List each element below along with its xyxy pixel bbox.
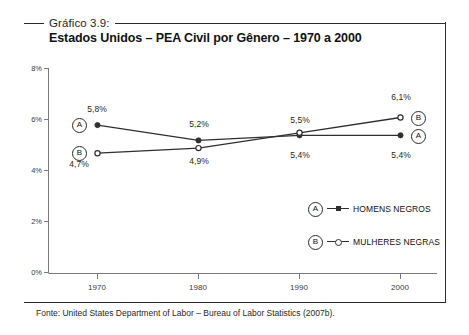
series-line-homens-negros xyxy=(98,125,401,140)
value-label-b-1990: 5,5% xyxy=(283,115,317,125)
value-label-a-2000: 5,4% xyxy=(384,150,418,160)
legend-item-homens-negros[interactable]: A HOMENS NEGROS xyxy=(308,199,438,219)
data-point-b-2000 xyxy=(398,115,403,120)
figure-number-label: Gráfico 3.9: xyxy=(49,17,110,29)
data-point-b-1990 xyxy=(297,130,302,135)
x-axis-label-1970: 1970 xyxy=(77,283,117,292)
y-axis-label-0: 0% xyxy=(24,268,42,277)
x-axis-label-1990: 1990 xyxy=(279,283,319,292)
value-label-a-1980: 5,2% xyxy=(182,119,216,129)
value-label-b-1980: 4,9% xyxy=(182,156,216,166)
value-label-b-2000: 6,1% xyxy=(384,92,418,102)
endpoint-badge-a-left: A xyxy=(72,118,87,133)
endpoint-badge-b-right: B xyxy=(411,111,426,126)
figure-frame-bottom xyxy=(24,302,446,303)
series-line-mulheres-negras xyxy=(98,118,401,154)
data-point-a-1970 xyxy=(95,123,100,128)
endpoint-badge-a-right: A xyxy=(411,129,426,144)
figure-container: Gráfico 3.9: Estados Unidos – PEA Civil … xyxy=(0,0,469,335)
y-axis-label-2: 2% xyxy=(24,217,42,226)
legend-marker-filled-icon xyxy=(327,204,349,214)
title-rule-right xyxy=(115,23,445,24)
figure-title: Estados Unidos – PEA Civil por Gênero – … xyxy=(49,31,362,45)
legend-marker-hollow-icon xyxy=(327,237,349,247)
data-point-a-1990 xyxy=(297,133,302,138)
data-point-a-2000 xyxy=(398,133,403,138)
value-label-a-1990: 5,4% xyxy=(283,150,317,160)
value-label-b-1970: 4,7% xyxy=(62,159,96,169)
data-point-b-1980 xyxy=(196,146,201,151)
legend-item-mulheres-negras[interactable]: B MULHERES NEGRAS xyxy=(308,232,438,252)
legend-badge-b: B xyxy=(308,235,323,250)
x-axis-label-1980: 1980 xyxy=(178,283,218,292)
legend-label-homens-negros: HOMENS NEGROS xyxy=(353,204,431,214)
legend-label-mulheres-negras: MULHERES NEGRAS xyxy=(353,237,440,247)
data-point-b-1970 xyxy=(95,151,100,156)
y-axis-label-4: 4% xyxy=(24,166,42,175)
figure-number-row: Gráfico 3.9: xyxy=(24,16,445,30)
x-axis-label-2000: 2000 xyxy=(380,283,420,292)
data-point-a-1980 xyxy=(196,138,201,143)
legend-badge-a: A xyxy=(308,202,323,217)
figure-frame-right xyxy=(445,22,446,303)
value-label-a-1970: 5,8% xyxy=(80,104,114,114)
y-axis-label-6: 6% xyxy=(24,115,42,124)
figure-source-note: Fonte: United States Department of Labor… xyxy=(36,308,335,318)
title-rule-left xyxy=(24,23,44,24)
chart-legend: A HOMENS NEGROS B MULHERES NEGRAS xyxy=(308,199,438,265)
y-axis-label-8: 8% xyxy=(24,64,42,73)
